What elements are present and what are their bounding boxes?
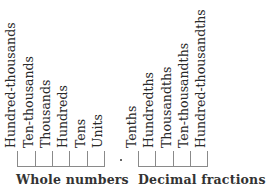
decimal-fractions-label: Decimal fractions xyxy=(138,172,266,187)
decimal-point xyxy=(120,159,122,161)
tick xyxy=(190,151,191,167)
place-label-ten-thousandths: Ten-thousandths xyxy=(177,43,191,148)
tick xyxy=(207,151,208,167)
place-label-thousands: Thousands xyxy=(39,80,53,148)
tick xyxy=(69,151,70,167)
place-label-hundred-thousands: Hundred-thousands xyxy=(4,22,18,148)
place-label-hundred-thousandths: Hundred-thousandths xyxy=(194,9,208,148)
place-label-tens: Tens xyxy=(74,119,88,148)
place-label-hundredths: Hundredths xyxy=(142,72,156,148)
tick xyxy=(155,151,156,167)
place-label-hundreds: Hundreds xyxy=(56,85,70,148)
tick xyxy=(104,151,105,167)
tick xyxy=(87,151,88,167)
tick xyxy=(138,151,139,167)
whole-numbers-bracket xyxy=(17,166,105,167)
place-label-thousandths: Thousandths xyxy=(160,67,174,148)
place-label-tenths: Tenths xyxy=(125,106,139,148)
place-label-ten-thousands: Ten-thousands xyxy=(22,56,36,148)
place-label-units: Units xyxy=(91,114,105,148)
decimal-fractions-bracket xyxy=(138,166,208,167)
tick xyxy=(173,151,174,167)
tick xyxy=(17,151,18,167)
tick xyxy=(52,151,53,167)
tick xyxy=(35,151,36,167)
whole-numbers-label: Whole numbers xyxy=(16,172,129,187)
